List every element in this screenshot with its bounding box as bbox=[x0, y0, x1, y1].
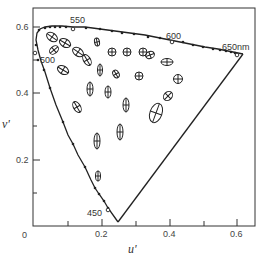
macadam-ellipse bbox=[56, 64, 70, 77]
wavelength-label-600: 600 bbox=[166, 31, 181, 41]
macadam-ellipse bbox=[87, 82, 93, 96]
x-tick-label: 0 bbox=[22, 230, 27, 240]
wavelength-markers bbox=[33, 27, 239, 212]
macadam-ellipse bbox=[111, 69, 120, 79]
y-tick-label: 0.6 bbox=[16, 22, 29, 32]
macadam-ellipse bbox=[117, 124, 123, 140]
x-tick-label: 0.2 bbox=[95, 229, 108, 239]
macadam-ellipse bbox=[123, 48, 131, 56]
macadam-ellipse bbox=[58, 37, 72, 50]
x-tick-label: 0.4 bbox=[163, 229, 176, 239]
macadam-ellipse bbox=[45, 30, 59, 43]
macadam-ellipse bbox=[135, 72, 143, 80]
macadam-ellipse bbox=[94, 38, 100, 47]
chromaticity-diagram: 0.6 0.4 0.2 0 0.2 0.4 0.6 u' v' 450 bbox=[0, 0, 261, 260]
x-tick-label: 0.6 bbox=[230, 229, 243, 239]
wavelength-label-450: 450 bbox=[87, 208, 102, 218]
macadam-ellipse bbox=[162, 90, 175, 103]
macadam-ellipse bbox=[96, 171, 101, 181]
diagram-canvas: 0.6 0.4 0.2 0 0.2 0.4 0.6 u' v' 450 bbox=[0, 0, 261, 260]
macadam-ellipse bbox=[105, 86, 111, 98]
macadam-ellipses bbox=[45, 30, 183, 181]
x-ticks bbox=[68, 219, 237, 226]
macadam-ellipse bbox=[98, 64, 103, 76]
macadam-ellipse bbox=[108, 48, 116, 56]
macadam-ellipse bbox=[94, 133, 100, 149]
macadam-ellipse bbox=[71, 100, 83, 114]
y-tick-label: 0.2 bbox=[16, 155, 29, 165]
macadam-ellipse bbox=[174, 75, 183, 84]
x-axis-label: u' bbox=[128, 242, 137, 256]
macadam-ellipse bbox=[147, 102, 165, 125]
wavelength-label-650: 650nm bbox=[222, 42, 250, 52]
wavelength-label-500: 500 bbox=[40, 55, 55, 65]
y-tick-label: 0.4 bbox=[16, 88, 29, 98]
y-axis-label: v' bbox=[2, 117, 10, 131]
locus-markers bbox=[35, 26, 237, 210]
macadam-ellipse bbox=[161, 59, 173, 66]
wavelength-label-550: 550 bbox=[70, 15, 85, 25]
macadam-ellipse bbox=[123, 98, 129, 112]
